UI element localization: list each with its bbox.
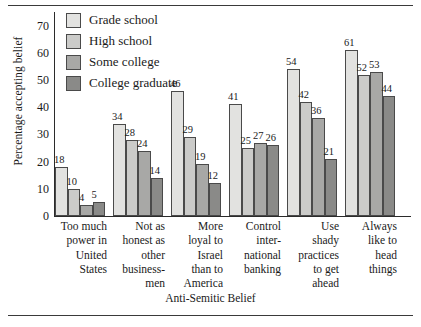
x-axis-line	[54, 216, 411, 217]
x-axis-label-line: things	[335, 262, 397, 276]
bar-value-label: 19	[195, 152, 206, 163]
bar	[209, 183, 222, 216]
x-axis-label-line: to get	[277, 262, 339, 276]
x-axis-label-line: Always	[335, 219, 397, 233]
y-tick-label: 40	[14, 101, 54, 113]
bar	[345, 50, 358, 216]
bar-group: 54423621	[287, 12, 337, 216]
x-axis-label-line: Control	[219, 219, 281, 233]
x-axis-label-line: States	[45, 262, 107, 276]
x-axis-labels: Too muchpower inUnitedStatesNot ashonest…	[54, 219, 411, 299]
x-axis-label-line: shady	[277, 233, 339, 247]
x-axis-label-line: men	[103, 276, 165, 290]
x-axis-label-line: than to	[161, 262, 223, 276]
x-axis-group-label: Not ashonest asotherbusiness-men	[103, 219, 165, 290]
bar-value-label: 5	[92, 190, 97, 201]
bar-value-label: 10	[67, 177, 78, 188]
x-axis-label-line: loyal to	[161, 233, 223, 247]
bar	[300, 102, 313, 216]
x-axis-label-line: honest as	[103, 233, 165, 247]
bar-value-label: 53	[369, 60, 380, 71]
bar-value-label: 4	[79, 193, 84, 204]
x-axis-label-line: practices	[277, 248, 339, 262]
bar-value-label: 28	[125, 128, 136, 139]
x-axis-label-line: other	[103, 248, 165, 262]
bar	[383, 96, 396, 216]
y-tick-label: 30	[14, 128, 54, 140]
bar-group: 181045	[55, 12, 105, 216]
bar	[229, 104, 242, 216]
y-tick-label: 50	[14, 74, 54, 86]
bar-group: 41252726	[229, 12, 279, 216]
x-axis-group-label: Moreloyal toIsraelthan toAmerica	[161, 219, 223, 290]
x-axis-label-line: power in	[45, 233, 107, 247]
bar-value-label: 61	[344, 38, 355, 49]
bar	[242, 148, 255, 216]
x-axis-label-line: like to	[335, 233, 397, 247]
bar-group: 34282414	[113, 12, 163, 216]
top-rule	[8, 5, 413, 6]
bar-value-label: 12	[208, 171, 219, 182]
bar-value-label: 21	[324, 147, 335, 158]
y-axis-ticks: 010203040506070	[0, 0, 54, 227]
x-axis-label-line: Not as	[103, 219, 165, 233]
bar	[358, 75, 371, 216]
x-axis-label-line: Too much	[45, 219, 107, 233]
bar-group: 61525344	[345, 12, 395, 216]
y-tick-label: 70	[14, 20, 54, 32]
bar	[126, 140, 139, 216]
chart-figure: Percentage accepting belief 010203040506…	[0, 0, 421, 327]
bar-value-label: 24	[137, 139, 148, 150]
bar	[80, 205, 93, 216]
x-axis-label-line: ahead	[277, 276, 339, 290]
bar-value-label: 52	[357, 63, 368, 74]
x-axis-label-line: More	[161, 219, 223, 233]
x-axis-label-line: inter-	[219, 233, 281, 247]
bar-value-label: 41	[228, 92, 239, 103]
bar	[138, 151, 151, 216]
bar-value-label: 29	[183, 125, 194, 136]
bar	[171, 91, 184, 216]
x-axis-title: Anti-Semitic Belief	[0, 292, 421, 304]
bar-value-label: 46	[170, 79, 181, 90]
bar-value-label: 18	[54, 155, 65, 166]
x-axis-label-line: banking	[219, 262, 281, 276]
bar-value-label: 54	[286, 57, 297, 68]
bar-value-label: 44	[382, 84, 393, 95]
bar-value-label: 26	[266, 133, 277, 144]
x-axis-label-line: national	[219, 248, 281, 262]
bar-value-label: 42	[299, 90, 310, 101]
bottom-rule	[8, 315, 413, 316]
bar	[184, 137, 197, 216]
bar	[151, 178, 164, 216]
bar	[312, 118, 325, 216]
y-tick-label: 60	[14, 47, 54, 59]
bar	[267, 145, 280, 216]
x-axis-label-line: America	[161, 276, 223, 290]
x-axis-group-label: Alwayslike toheadthings	[335, 219, 397, 276]
bar-value-label: 36	[311, 106, 322, 117]
x-axis-label-line: head	[335, 248, 397, 262]
x-axis-group-label: Useshadypracticesto getahead	[277, 219, 339, 290]
x-axis-label-line: United	[45, 248, 107, 262]
x-axis-group-label: Controlinter-nationalbanking	[219, 219, 281, 276]
y-tick-label: 10	[14, 183, 54, 195]
bar-plot-area: 1810453428241446291912412527265442362161…	[54, 12, 411, 216]
bar-value-label: 14	[150, 166, 161, 177]
bar	[93, 202, 106, 216]
x-axis-group-label: Too muchpower inUnitedStates	[45, 219, 107, 276]
bar	[325, 159, 338, 216]
bar-value-label: 25	[241, 136, 252, 147]
x-axis-label-line: Use	[277, 219, 339, 233]
y-tick-label: 20	[14, 156, 54, 168]
bar-value-label: 27	[253, 131, 264, 142]
bar	[55, 167, 68, 216]
bar-group: 46291912	[171, 12, 221, 216]
x-axis-label-line: Israel	[161, 248, 223, 262]
bar-value-label: 34	[112, 112, 123, 123]
bar	[254, 143, 267, 216]
x-axis-label-line: business-	[103, 262, 165, 276]
